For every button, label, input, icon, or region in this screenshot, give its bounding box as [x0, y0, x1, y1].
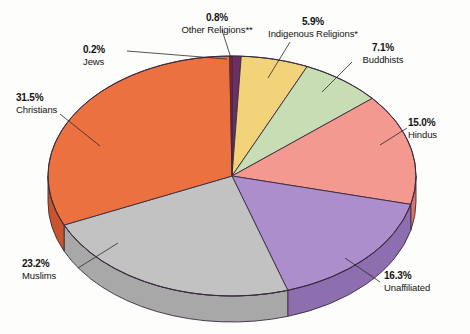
callout-indigenous-religions: 5.9% Indigenous Religions*: [258, 16, 368, 39]
callout-percent-other-religions: 0.8%: [206, 12, 228, 23]
pie-chart-figure: 0.8% Other Religions** 5.9% Indigenous R…: [0, 0, 470, 334]
callout-percent-christians: 31.5%: [16, 92, 43, 103]
callout-percent-buddhists: 7.1%: [372, 42, 394, 53]
callout-name-christians: Christians: [16, 104, 57, 115]
callout-name-unaffiliated: Unaffiliated: [384, 282, 430, 293]
callout-name-indigenous-religions: Indigenous Religions*: [268, 28, 358, 39]
callout-percent-hindus: 15.0%: [408, 117, 435, 128]
callout-christians: 31.5% Christians: [16, 92, 94, 115]
callout-percent-unaffiliated: 16.3%: [384, 270, 411, 281]
callout-hindus: 15.0% Hindus: [408, 117, 466, 140]
callout-percent-muslims: 23.2%: [22, 258, 49, 269]
callout-name-muslims: Muslims: [22, 270, 56, 281]
callout-name-jews: Jews: [83, 56, 104, 67]
callout-buddhists: 7.1% Buddhists: [346, 42, 420, 65]
pie-top-surface-layer: [48, 56, 416, 296]
leader-line-jews: [127, 51, 227, 59]
callout-percent-jews: 0.2%: [83, 44, 105, 55]
callout-muslims: 23.2% Muslims: [22, 258, 94, 281]
callout-name-hindus: Hindus: [408, 129, 437, 140]
callout-name-other-religions: Other Religions**: [181, 24, 252, 35]
callout-unaffiliated: 16.3% Unaffiliated: [384, 270, 466, 293]
callout-jews: 0.2% Jews: [83, 44, 129, 67]
callout-name-buddhists: Buddhists: [363, 54, 404, 65]
callout-percent-indigenous-religions: 5.9%: [302, 16, 324, 27]
